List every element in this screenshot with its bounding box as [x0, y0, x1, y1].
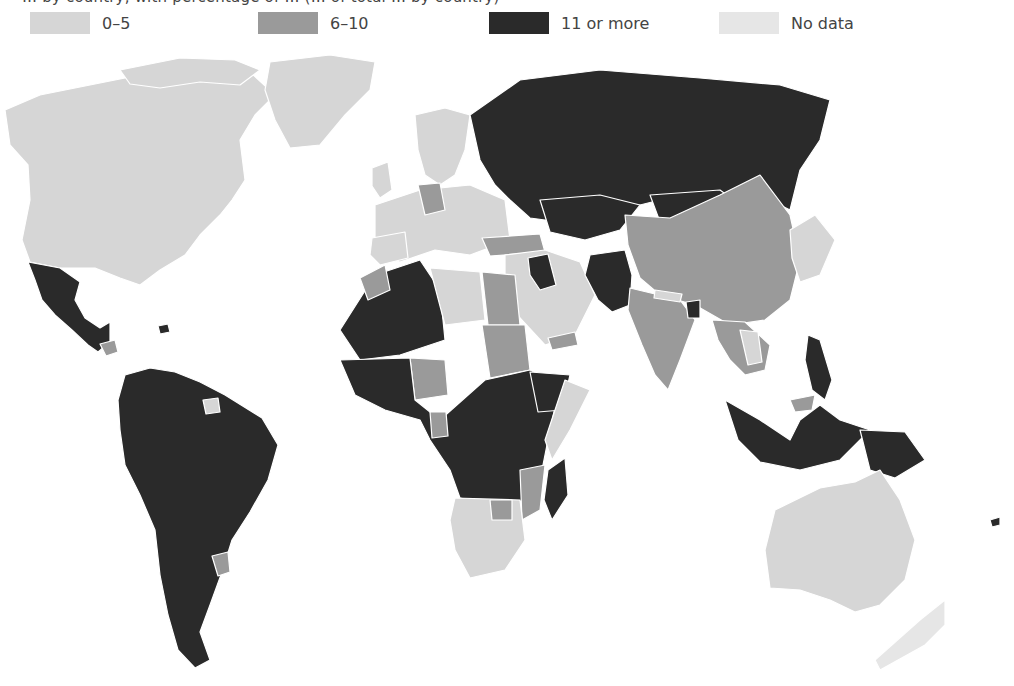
- region-egypt: [482, 272, 520, 325]
- region-nigeria: [410, 358, 448, 400]
- legend-label-low: 0–5: [102, 14, 130, 33]
- region-japan-korea: [790, 215, 835, 282]
- region-new-zealand: [875, 600, 945, 670]
- region-southern-africa: [450, 498, 525, 578]
- region-sudan: [482, 325, 530, 378]
- legend-swatch-low: [30, 12, 90, 34]
- region-north-africa-west: [340, 260, 445, 360]
- region-bangladesh: [686, 300, 700, 318]
- legend-label-high: 11 or more: [561, 14, 649, 33]
- legend-item-low: 0–5: [30, 12, 130, 34]
- map-legend: 0–5 6–10 11 or more No data: [0, 12, 1014, 38]
- region-fiji: [990, 517, 1000, 527]
- chart-title-fragment: … by country, with percentage of … (… of…: [22, 0, 1012, 6]
- region-uk: [372, 162, 392, 198]
- region-south-america: [118, 368, 278, 668]
- legend-label-nodata: No data: [791, 14, 854, 33]
- region-greenland: [265, 55, 375, 148]
- region-madagascar: [544, 458, 568, 520]
- legend-swatch-mid: [258, 12, 318, 34]
- legend-item-nodata: No data: [719, 12, 854, 34]
- region-philippines: [805, 335, 832, 400]
- region-papua-new-guinea: [860, 430, 925, 478]
- region-canada-islands: [120, 58, 260, 88]
- region-mexico: [28, 262, 110, 352]
- region-scandinavia: [415, 108, 470, 185]
- region-french-guiana: [203, 398, 220, 414]
- region-malaysia-borneo: [790, 395, 815, 412]
- legend-swatch-high: [489, 12, 549, 34]
- region-north-america: [5, 68, 275, 285]
- region-australia: [765, 470, 915, 612]
- region-haiti: [158, 324, 170, 334]
- region-gabon: [430, 412, 448, 438]
- region-mozambique: [520, 465, 545, 520]
- legend-item-high: 11 or more: [489, 12, 649, 34]
- region-afghanistan-pakistan: [585, 250, 632, 312]
- legend-label-mid: 6–10: [330, 14, 369, 33]
- legend-swatch-nodata: [719, 12, 779, 34]
- region-se-asia: [712, 320, 770, 375]
- region-zimbabwe: [490, 500, 512, 520]
- legend-item-mid: 6–10: [258, 12, 369, 34]
- region-india: [628, 288, 695, 390]
- world-choropleth-map: [0, 50, 1014, 686]
